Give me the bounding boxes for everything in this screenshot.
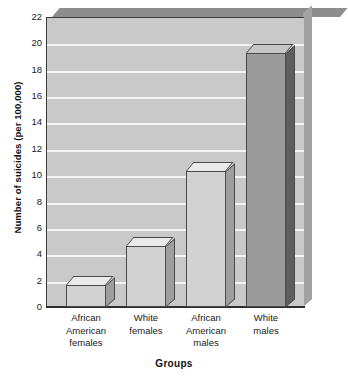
bar-4-face — [246, 53, 286, 307]
bar-4 — [246, 53, 286, 307]
y-tick-label: 0 — [20, 302, 42, 312]
y-tick-label: 16 — [20, 91, 42, 101]
x-axis-title: Groups — [0, 358, 348, 369]
bar-2-top — [126, 237, 174, 246]
bar-1 — [66, 285, 106, 307]
category-label-line: White — [228, 312, 304, 325]
plot-slab-right — [303, 5, 312, 307]
bar-series — [46, 17, 304, 307]
bar-2-face — [126, 246, 166, 307]
bar-1-top — [66, 276, 114, 285]
y-tick-label: 10 — [20, 170, 42, 180]
y-tick-label: 20 — [20, 39, 42, 49]
bar-4-top — [246, 44, 294, 53]
category-label: Whitemales — [228, 312, 304, 337]
y-tick-label: 14 — [20, 118, 42, 128]
bar-3-side — [226, 163, 235, 307]
y-tick-label: 22 — [20, 12, 42, 22]
bar-2 — [126, 246, 166, 307]
bar-4-side — [286, 45, 295, 307]
y-tick-label: 2 — [20, 276, 42, 286]
category-label-line: males — [168, 337, 244, 350]
bar-chart: Number of suicides (per 100,000) 2220181… — [0, 0, 348, 376]
category-label-line: males — [228, 325, 304, 338]
bar-3-face — [186, 171, 226, 307]
y-tick-label: 4 — [20, 250, 42, 260]
x-axis-category-labels: AfricanAmericanfemalesWhitefemalesAfrica… — [46, 312, 308, 360]
bar-2-side — [166, 239, 175, 307]
category-label-line: females — [48, 337, 124, 350]
bar-3-top — [186, 162, 234, 171]
y-tick-label: 8 — [20, 197, 42, 207]
y-tick-label: 6 — [20, 223, 42, 233]
y-tick-label: 18 — [20, 65, 42, 75]
y-tick-label: 12 — [20, 144, 42, 154]
y-axis-tick-labels: 2220181614121086420 — [20, 0, 42, 376]
bar-3 — [186, 171, 226, 307]
bar-1-face — [66, 285, 106, 307]
